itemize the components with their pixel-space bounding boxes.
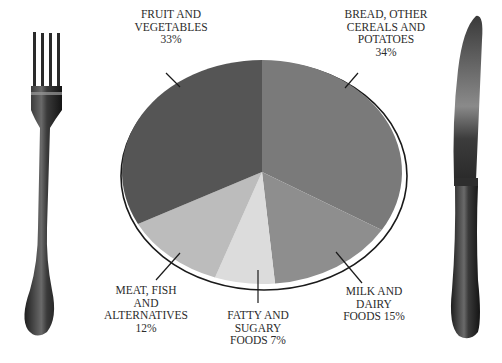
pie-slices (122, 60, 402, 284)
label-fatty: FATTY AND SUGARY FOODS 7% (218, 309, 298, 347)
label-fruit: FRUIT AND VEGETABLES 33% (126, 8, 216, 46)
label-meat: MEAT, FISH AND ALTERNATIVES 12% (96, 284, 196, 334)
knife-icon (451, 16, 482, 338)
label-milk: MILK AND DAIRY FOODS 15% (334, 285, 414, 323)
label-bread: BREAD, OTHER CEREALS AND POTATOES 34% (336, 8, 436, 58)
fork-icon (24, 32, 62, 336)
